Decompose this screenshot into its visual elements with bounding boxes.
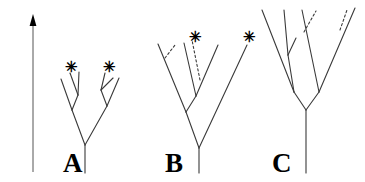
right-node-left <box>101 90 107 106</box>
left-sub-left <box>70 73 78 95</box>
time-axis-label: Time <box>0 125 3 180</box>
root-right <box>85 106 107 145</box>
left-sub-right <box>196 45 218 96</box>
trees-group <box>61 8 355 173</box>
left-node-left <box>61 79 72 110</box>
left-node-mid-stem <box>186 96 196 112</box>
extinction-marker-icon: ✳ <box>243 30 255 45</box>
root-left <box>294 92 306 110</box>
extinct-branch-mid <box>192 40 200 80</box>
root-left <box>186 112 199 148</box>
right-node-up <box>302 10 319 92</box>
right-node-right <box>319 8 355 92</box>
left-mid-up-right <box>288 38 296 55</box>
arrow-up-icon <box>30 14 37 26</box>
tree-label-c: C <box>272 150 292 177</box>
extinction-marker-icon: ✳ <box>103 60 115 75</box>
left-node-left <box>158 44 186 112</box>
root-right <box>306 92 319 110</box>
extinct-stub-left <box>165 45 175 58</box>
extinction-marker-icon: ✳ <box>65 60 77 75</box>
tree-label-a: A <box>63 150 83 177</box>
root-right <box>199 45 247 148</box>
left-mid-up-left <box>284 10 288 55</box>
left-node-mid <box>288 55 294 92</box>
left-node-right <box>72 95 78 110</box>
phylogenetic-tree-figure: Time ABC ✳✳✳✳ <box>0 0 365 182</box>
time-axis <box>30 14 37 172</box>
left-node-left <box>262 10 294 92</box>
tree-label-b: B <box>165 150 183 177</box>
extinction-marker-icon: ✳ <box>189 30 201 45</box>
extinct-branch-right <box>340 10 347 30</box>
left-sub-right <box>78 72 79 95</box>
root-left <box>72 110 85 145</box>
